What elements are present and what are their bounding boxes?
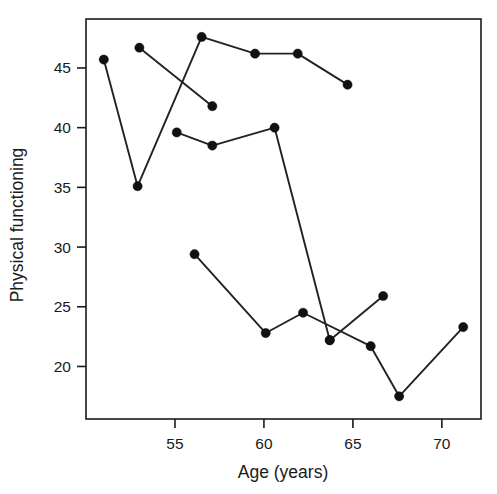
x-tick-label: 55 [166, 435, 183, 452]
data-point-marker [99, 55, 108, 64]
x-axis-ticks [175, 419, 442, 428]
data-point-marker [208, 102, 217, 111]
series-line [177, 128, 330, 341]
y-tick-label: 45 [54, 59, 71, 76]
data-point-marker [208, 141, 217, 150]
plot-frame [86, 19, 481, 419]
physical-functioning-vs-age-line-chart: 55606570 202530354045 Age (years) Physic… [0, 0, 497, 494]
x-tick-label: 65 [344, 435, 361, 452]
data-point-marker [379, 291, 388, 300]
data-point-marker [197, 32, 206, 41]
data-point-marker [172, 128, 181, 137]
y-tick-label: 30 [54, 239, 72, 256]
y-tick-label: 25 [54, 298, 71, 315]
series-line [195, 254, 464, 396]
y-axis-tick-labels: 202530354045 [54, 59, 72, 375]
data-point-marker [366, 342, 375, 351]
x-axis-title: Age (years) [238, 462, 328, 482]
series-line [104, 37, 348, 186]
data-point-marker [459, 322, 468, 331]
series-markers [99, 32, 468, 401]
series-line [330, 296, 383, 340]
data-point-marker [270, 123, 279, 132]
data-point-marker [190, 250, 199, 259]
series-lines [104, 37, 463, 396]
x-tick-label: 70 [433, 435, 451, 452]
y-axis-title: Physical functioning [7, 148, 27, 303]
y-tick-label: 20 [54, 358, 72, 375]
x-tick-label: 60 [255, 435, 273, 452]
data-point-marker [343, 80, 352, 89]
data-point-marker [298, 308, 307, 317]
data-point-marker [133, 182, 142, 191]
data-point-marker [325, 336, 334, 345]
y-tick-label: 35 [54, 179, 71, 196]
data-point-marker [293, 49, 302, 58]
x-axis-tick-labels: 55606570 [166, 435, 451, 452]
chart-figure: 55606570 202530354045 Age (years) Physic… [0, 0, 497, 494]
data-point-marker [395, 392, 404, 401]
data-point-marker [261, 328, 270, 337]
data-point-marker [135, 43, 144, 52]
data-point-marker [250, 49, 259, 58]
y-tick-label: 40 [54, 119, 72, 136]
y-axis-ticks [77, 68, 86, 367]
